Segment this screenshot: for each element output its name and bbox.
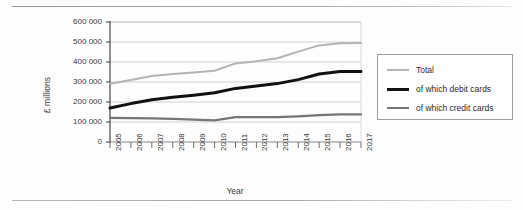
x-tick-label: 2008 xyxy=(177,133,186,151)
y-tick-label: 0 xyxy=(56,137,102,146)
legend-label-credit-cards: of which credit cards xyxy=(416,103,493,113)
x-tick-label: 2014 xyxy=(302,133,311,151)
legend-label-debit-cards: of which debit cards xyxy=(416,84,491,94)
x-tick-label: 2011 xyxy=(240,134,249,151)
chart-legend: Total of which debit cards of which cred… xyxy=(377,54,513,120)
legend-item-debit-cards: of which debit cards xyxy=(378,81,514,97)
x-axis-title: Year xyxy=(170,186,300,196)
legend-item-total: Total xyxy=(378,62,514,78)
x-tick-label: 2007 xyxy=(156,133,165,151)
y-axis-title: £ millions xyxy=(42,60,52,130)
legend-swatch-total xyxy=(387,69,409,71)
x-tick-label: 2010 xyxy=(219,133,228,151)
x-tick-label: 2016 xyxy=(344,133,353,151)
y-tick-label: 100 000 xyxy=(56,117,102,126)
y-tick-label: 200 000 xyxy=(56,97,102,106)
legend-label-total: Total xyxy=(416,65,434,75)
legend-swatch-credit-cards xyxy=(387,107,409,109)
x-tick-label: 2015 xyxy=(323,133,332,151)
x-tick-label: 2013 xyxy=(281,133,290,151)
y-tick-label: 300 000 xyxy=(56,77,102,86)
series-line-total xyxy=(110,43,361,84)
x-tick-label: 2009 xyxy=(198,133,207,151)
x-tick-label: 2005 xyxy=(114,133,123,151)
legend-swatch-debit-cards xyxy=(387,88,409,91)
x-tick-label: 2006 xyxy=(135,133,144,151)
legend-item-credit-cards: of which credit cards xyxy=(378,100,514,116)
y-tick-label: 400 000 xyxy=(56,57,102,66)
x-tick-label: 2012 xyxy=(260,133,269,151)
chart-figure: £ millions Year 0100 000200 000300 00040… xyxy=(0,0,523,210)
x-tick-label: 2017 xyxy=(365,133,374,151)
series-line-credit-cards xyxy=(110,114,361,120)
y-tick-label: 500 000 xyxy=(56,37,102,46)
y-tick-label: 600 000 xyxy=(56,17,102,26)
